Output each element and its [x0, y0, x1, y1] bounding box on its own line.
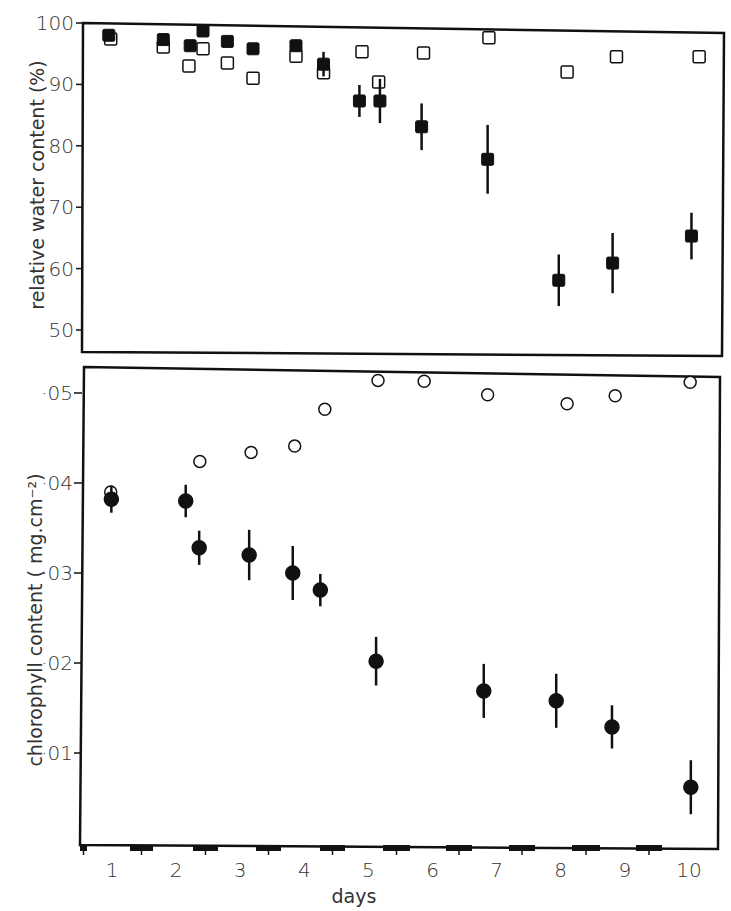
filled-square-marker	[607, 257, 619, 269]
night-bar	[509, 845, 535, 851]
filled-square-marker	[553, 274, 565, 286]
figure: 1009080706050 relative water content (%)…	[0, 0, 731, 911]
bottom-panel-frame	[80, 367, 720, 849]
filled-circle-marker	[605, 720, 619, 734]
filled-square-marker	[247, 43, 259, 55]
x-tick-label: 5	[362, 858, 375, 882]
open-square-marker	[373, 76, 385, 88]
filled-square-marker	[353, 95, 365, 107]
y-tick-label: 100	[36, 11, 74, 35]
filled-square-marker	[482, 153, 494, 165]
open-square-marker	[221, 57, 233, 69]
x-axis-ticks: 12345678910	[106, 858, 702, 882]
open-square-marker	[183, 60, 195, 72]
top-panel: 1009080706050 relative water content (%)	[26, 11, 724, 356]
open-square-marker	[483, 32, 495, 44]
y-tick-label: 60	[49, 257, 74, 281]
filled-square-marker	[103, 29, 115, 41]
filled-circle-marker	[549, 694, 563, 708]
x-axis-label: days	[332, 885, 377, 907]
open-circle-marker	[482, 389, 494, 401]
open-circle-marker	[319, 403, 331, 415]
filled-circle-marker	[242, 548, 256, 562]
open-circle-marker	[684, 376, 696, 388]
top-data-points	[103, 25, 705, 306]
open-square-marker	[693, 51, 705, 63]
bottom-panel: ·05·04·03·02·01 chlorophyll content ( mg…	[24, 367, 720, 907]
open-square-marker	[197, 43, 209, 55]
x-tick-label: 10	[676, 858, 701, 882]
open-square-marker	[418, 47, 430, 59]
open-circle-marker	[609, 390, 621, 402]
open-square-marker	[247, 72, 259, 84]
filled-circle-marker	[286, 566, 300, 580]
bottom-y-axis-ticks: ·05·04·03·02·01	[41, 381, 82, 765]
open-circle-marker	[561, 398, 573, 410]
x-tick-label: 8	[554, 858, 567, 882]
x-tick-label: 7	[490, 858, 503, 882]
x-tick-label: 2	[170, 858, 183, 882]
open-circle-marker	[289, 440, 301, 452]
bottom-y-axis-label: chlorophyll content ( mg.cm⁻²)	[24, 473, 46, 766]
x-tick-label: 6	[426, 858, 439, 882]
top-y-axis-label: relative water content (%)	[26, 60, 48, 310]
open-circle-marker	[194, 455, 206, 467]
filled-circle-marker	[369, 654, 383, 668]
open-circle-marker	[245, 446, 257, 458]
night-bar	[80, 845, 87, 851]
y-tick-label: 80	[49, 134, 74, 158]
filled-circle-marker	[477, 684, 491, 698]
night-bar	[446, 845, 472, 851]
filled-square-marker	[685, 230, 697, 242]
filled-square-marker	[318, 58, 330, 70]
night-bar	[572, 845, 600, 851]
night-bar	[193, 845, 218, 851]
x-tick-label: 4	[298, 858, 311, 882]
y-tick-label: 90	[49, 72, 74, 96]
y-tick-label: 70	[49, 195, 74, 219]
filled-square-marker	[221, 35, 233, 47]
filled-square-marker	[290, 40, 302, 52]
filled-circle-marker	[684, 780, 698, 794]
filled-square-marker	[374, 95, 386, 107]
night-bar	[320, 845, 345, 851]
x-tick-label: 1	[106, 858, 119, 882]
open-circle-marker	[418, 375, 430, 387]
night-bar	[256, 845, 281, 851]
y-tick-label: 50	[49, 318, 74, 342]
filled-square-marker	[157, 34, 169, 46]
night-bar	[636, 845, 662, 851]
open-square-marker	[610, 51, 622, 63]
filled-circle-marker	[313, 583, 327, 597]
open-square-marker	[561, 66, 573, 78]
filled-square-marker	[197, 25, 209, 37]
filled-square-marker	[184, 40, 196, 52]
top-panel-frame	[82, 23, 724, 356]
open-square-marker	[356, 46, 368, 58]
filled-circle-marker	[104, 492, 118, 506]
night-bar	[383, 845, 410, 851]
y-tick-label: ·05	[41, 381, 73, 405]
filled-square-marker	[416, 121, 428, 133]
filled-circle-marker	[179, 494, 193, 508]
open-circle-marker	[372, 374, 384, 386]
night-bar	[130, 845, 153, 851]
bottom-data-points	[104, 374, 697, 814]
x-tick-label: 3	[234, 858, 247, 882]
filled-circle-marker	[192, 541, 206, 555]
x-tick-label: 9	[618, 858, 631, 882]
